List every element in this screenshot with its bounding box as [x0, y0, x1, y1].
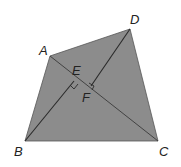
label-D: D	[130, 12, 139, 27]
label-E: E	[72, 63, 81, 78]
label-B: B	[14, 144, 23, 159]
label-C: C	[159, 144, 169, 159]
quadrilateral-diagram: A B C D E F	[0, 0, 181, 167]
label-F: F	[82, 90, 91, 105]
label-A: A	[38, 43, 48, 58]
